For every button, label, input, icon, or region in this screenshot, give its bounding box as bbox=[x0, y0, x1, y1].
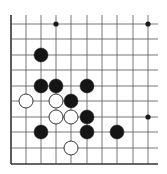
star-point-icon bbox=[53, 21, 58, 26]
black-stone bbox=[34, 125, 48, 139]
white-stone bbox=[64, 110, 78, 124]
black-stone bbox=[64, 94, 78, 108]
black-stone bbox=[34, 48, 48, 62]
star-point-icon bbox=[145, 114, 150, 119]
black-stone bbox=[80, 110, 94, 124]
white-stone bbox=[49, 110, 63, 124]
black-stone bbox=[34, 79, 48, 93]
white-stone bbox=[64, 141, 78, 155]
star-point-icon bbox=[145, 21, 150, 26]
stones bbox=[19, 48, 124, 155]
go-board bbox=[0, 0, 167, 174]
black-stone bbox=[49, 79, 63, 93]
black-stone bbox=[80, 79, 94, 93]
white-stone bbox=[49, 94, 63, 108]
white-stone bbox=[19, 94, 33, 108]
black-stone bbox=[80, 125, 94, 139]
black-stone bbox=[110, 125, 124, 139]
